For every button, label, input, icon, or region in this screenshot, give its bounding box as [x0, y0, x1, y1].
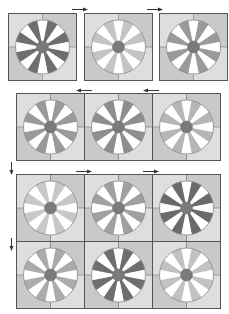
tile-top-3	[159, 13, 228, 81]
wheel-icon	[17, 242, 84, 308]
tile-bottom-4	[17, 242, 84, 308]
arrow-down-icon	[9, 162, 14, 175]
arrow-right-icon	[76, 169, 92, 174]
wheel-icon	[17, 94, 84, 160]
wheel-icon	[85, 14, 152, 80]
arrow-right-icon	[72, 7, 88, 12]
tile-middle-3	[153, 94, 220, 160]
wheel-icon	[9, 14, 76, 80]
tile-top-2	[84, 13, 153, 81]
middle-row-strip	[16, 93, 221, 161]
tile-bottom-6	[153, 242, 220, 308]
arrow-right-icon	[143, 169, 159, 174]
tile-middle-1	[17, 94, 84, 160]
tile-bottom-1	[17, 175, 84, 241]
wheel-icon	[85, 242, 152, 308]
wheel-icon	[17, 175, 84, 241]
tile-top-1	[8, 13, 77, 81]
tile-middle-2	[85, 94, 152, 160]
tile-bottom-5	[85, 242, 152, 308]
wheel-icon	[153, 94, 220, 160]
bottom-block	[16, 174, 221, 309]
tile-bottom-3	[153, 175, 220, 241]
wheel-icon	[160, 14, 227, 80]
tile-bottom-2	[85, 175, 152, 241]
arrow-left-icon	[143, 88, 159, 93]
wheel-icon	[85, 94, 152, 160]
wheel-icon	[153, 242, 220, 308]
arrow-down-icon	[9, 238, 14, 251]
wheel-icon	[85, 175, 152, 241]
arrow-left-icon	[76, 88, 92, 93]
arrow-right-icon	[147, 7, 163, 12]
wheel-icon	[153, 175, 220, 241]
